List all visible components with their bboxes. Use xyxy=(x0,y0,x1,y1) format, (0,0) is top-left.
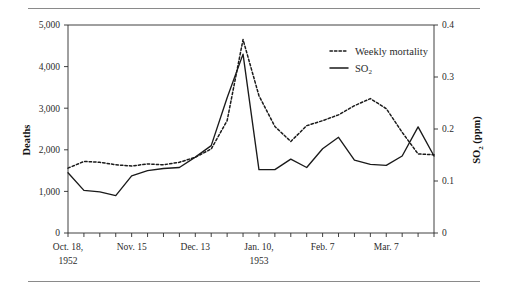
x-tick-label-16: Feb. 7 xyxy=(311,242,335,252)
x-axis-ticks xyxy=(68,233,434,237)
series-line-so2 xyxy=(68,54,434,195)
y2-tick-label-0: 0 xyxy=(442,228,447,238)
x-tick-label-year-0: 1952 xyxy=(59,256,78,266)
y-axis-right-tick-labels: 00.10.20.30.4 xyxy=(442,20,454,238)
x-axis-tick-labels: Oct. 18,1952Nov. 15Dec. 13Jan. 10,1953Fe… xyxy=(53,242,399,266)
svg-text:Deaths: Deaths xyxy=(21,125,32,156)
legend-label-so2: SO2 xyxy=(355,63,372,77)
y-tick-label-4000: 4,000 xyxy=(39,62,61,72)
y-tick-label-3000: 3,000 xyxy=(39,104,61,114)
y-tick-label-2000: 2,000 xyxy=(39,145,61,155)
y2-tick-label-0-1: 0.1 xyxy=(442,176,454,186)
y-tick-label-0: 0 xyxy=(55,228,60,238)
y-axis-left-tick-labels: 01,0002,0003,0004,0005,000 xyxy=(39,20,61,238)
figure-container: 01,0002,0003,0004,0005,000 00.10.20.30.4… xyxy=(0,0,508,291)
x-tick-label-4: Nov. 15 xyxy=(117,242,147,252)
y2-tick-label-0-4: 0.4 xyxy=(442,20,454,30)
legend: Weekly mortality SO2 xyxy=(330,46,429,77)
y-tick-label-5000: 5,000 xyxy=(39,20,61,30)
y-tick-label-1000: 1,000 xyxy=(39,187,61,197)
chart-canvas: 01,0002,0003,0004,0005,000 00.10.20.30.4… xyxy=(0,0,508,291)
y-axis-right-ticks xyxy=(434,25,438,233)
x-tick-label-20: Mar. 7 xyxy=(374,242,399,252)
series-line-weekly-mortality xyxy=(68,40,434,169)
y2-tick-label-0-3: 0.3 xyxy=(442,72,454,82)
x-tick-label-0: Oct. 18, xyxy=(53,242,83,252)
y-axis-right-title: SO2 (ppm) xyxy=(471,116,485,164)
svg-text:SO2 (ppm): SO2 (ppm) xyxy=(471,116,485,164)
legend-label-weekly-mortality: Weekly mortality xyxy=(355,46,429,57)
x-tick-label-8: Dec. 13 xyxy=(181,242,211,252)
x-tick-label-12: Jan. 10, xyxy=(244,242,273,252)
y-axis-left-title: Deaths xyxy=(21,125,32,156)
x-tick-label-year-12: 1953 xyxy=(249,256,268,266)
y2-tick-label-0-2: 0.2 xyxy=(442,124,454,134)
y-axis-left-ticks xyxy=(64,25,68,233)
